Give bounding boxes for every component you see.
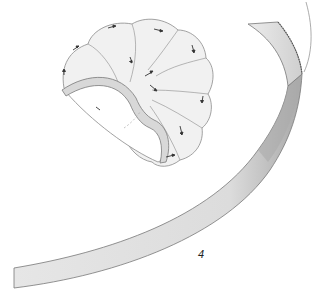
figure-number-label: 4 — [198, 248, 204, 260]
illustration: 4 — [0, 0, 321, 299]
upper-wall-band — [248, 2, 311, 86]
drawing-canvas — [0, 0, 321, 299]
shell-body — [62, 19, 213, 166]
